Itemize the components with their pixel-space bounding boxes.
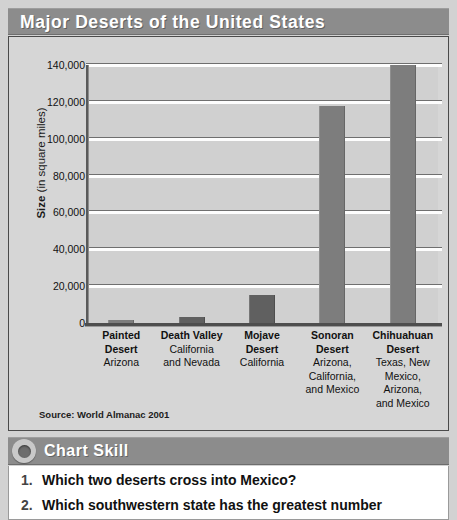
y-axis-tick-label: 120,000 — [35, 96, 85, 108]
x-axis-label-name: Chihuahuan — [368, 329, 438, 343]
y-axis-tick-label: 0 — [35, 317, 85, 329]
y-axis-tick-label: 100,000 — [35, 133, 85, 145]
question-item: 1. Which two deserts cross into Mexico? — [21, 472, 440, 488]
question-number: 2. — [21, 497, 42, 513]
gridline-tick — [438, 210, 442, 214]
chart-panel: Size (in square miles) 020,00040,00060,0… — [8, 36, 449, 431]
x-axis-label-location: and Nevada — [156, 356, 226, 370]
question-text: Which two deserts cross into Mexico? — [42, 472, 440, 488]
x-axis-line — [85, 323, 442, 326]
x-axis-label-name: Death Valley — [156, 329, 226, 343]
y-axis-tick-label: 60,000 — [35, 206, 85, 218]
gridline — [86, 63, 438, 67]
gridline — [86, 100, 438, 104]
x-axis-label: ChihuahuanDesertTexas, NewMexico, Arizon… — [368, 329, 438, 410]
x-axis-label-location: and Mexico — [297, 383, 367, 397]
chart-skill-label: Chart Skill — [44, 442, 129, 460]
y-axis-line — [86, 65, 89, 325]
gridline — [86, 284, 438, 288]
plot-area — [86, 65, 438, 323]
y-axis-tick-label: 140,000 — [35, 59, 85, 71]
x-axis-label-name: Desert — [297, 343, 367, 357]
x-axis-label-name: Desert — [86, 343, 156, 357]
bar — [249, 295, 275, 323]
x-axis-label-name: Sonoran — [297, 329, 367, 343]
gridline-tick — [438, 137, 442, 141]
x-axis-label: SonoranDesertArizona,California,and Mexi… — [297, 329, 367, 397]
x-axis-label-location: California — [156, 343, 226, 357]
x-axis-label-location: California, — [297, 370, 367, 384]
gridline — [86, 174, 438, 178]
page-root: Major Deserts of the United States Size … — [0, 0, 457, 520]
chart-title-banner: Major Deserts of the United States — [8, 8, 449, 35]
circle-bullet-icon — [12, 439, 36, 463]
x-axis-label-name: Desert — [227, 343, 297, 357]
x-axis-label-name: Mojave — [227, 329, 297, 343]
gridline-tick — [438, 247, 442, 251]
x-axis-label-location: Texas, New — [368, 356, 438, 370]
gridline-tick — [438, 100, 442, 104]
question-text: Which southwestern state has the greates… — [42, 497, 440, 513]
x-axis-label-location: Arizona, — [297, 356, 367, 370]
x-axis-label: MojaveDesertCalifornia — [227, 329, 297, 370]
y-axis-ticks: 020,00040,00060,00080,000100,000120,0001… — [35, 37, 85, 431]
page-title: Major Deserts of the United States — [20, 11, 325, 32]
x-axis-label: PaintedDesertArizona — [86, 329, 156, 370]
bar — [319, 106, 345, 323]
x-axis-label-location: Mexico, Arizona, — [368, 370, 438, 397]
x-axis-label-name: Painted — [86, 329, 156, 343]
gridline — [86, 210, 438, 214]
x-axis-label-location: and Mexico — [368, 397, 438, 411]
x-axis-label-name: Desert — [368, 343, 438, 357]
question-number: 1. — [21, 472, 42, 488]
gridline-tick — [438, 174, 442, 178]
plot-wrapper: Size (in square miles) 020,00040,00060,0… — [9, 37, 449, 431]
chart-source: Source: World Almanac 2001 — [39, 409, 169, 420]
gridline — [86, 137, 438, 141]
questions-panel: 1. Which two deserts cross into Mexico? … — [8, 466, 449, 520]
gridline — [86, 247, 438, 251]
question-item: 2. Which southwestern state has the grea… — [21, 497, 440, 513]
y-axis-tick-label: 80,000 — [35, 170, 85, 182]
x-axis-label-location: California — [227, 356, 297, 370]
gridline-tick — [438, 63, 442, 67]
gridline-tick — [438, 284, 442, 288]
chart-skill-banner: Chart Skill — [8, 437, 449, 465]
y-axis-tick-label: 40,000 — [35, 243, 85, 255]
bar — [390, 65, 416, 323]
y-axis-tick-label: 20,000 — [35, 280, 85, 292]
x-axis-label: Death ValleyCaliforniaand Nevada — [156, 329, 226, 370]
x-axis-label-location: Arizona — [86, 356, 156, 370]
